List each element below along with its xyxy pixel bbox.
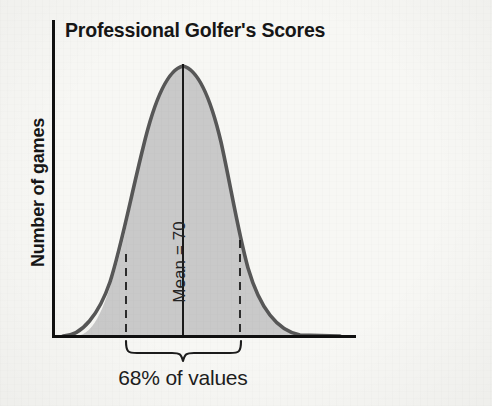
sd-interval-brace: [126, 341, 241, 361]
curve-fill-area: [75, 66, 312, 336]
y-axis-label: Number of games: [28, 93, 49, 293]
mean-annotation-label: Mean = 70: [170, 192, 190, 332]
figure-canvas: Professional Golfer's Scores Number of g…: [0, 0, 492, 406]
chart-title: Professional Golfer's Scores: [65, 19, 325, 42]
sd-interval-caption: 68% of values: [53, 366, 313, 390]
normal-distribution-plot: [0, 0, 492, 406]
